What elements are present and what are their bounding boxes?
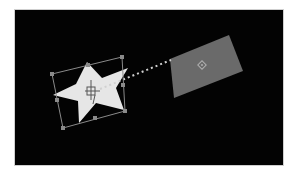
handle-bottom-left[interactable]: [61, 126, 65, 130]
motion-path-line[interactable]: [100, 60, 171, 89]
target-parallelogram-layer[interactable]: [170, 35, 243, 98]
handle-bottom-right[interactable]: [123, 109, 127, 113]
handle-right-mid[interactable]: [121, 83, 125, 87]
handle-top-mid[interactable]: [86, 63, 90, 67]
handle-bottom-mid[interactable]: [93, 116, 97, 120]
handle-top-right[interactable]: [120, 55, 124, 59]
handle-left-mid[interactable]: [55, 98, 59, 102]
handle-top-left[interactable]: [50, 72, 54, 76]
canvas-stage[interactable]: [0, 0, 296, 175]
